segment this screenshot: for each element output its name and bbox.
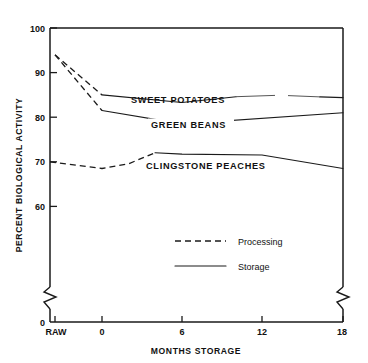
series-green-beans-processing: [55, 55, 102, 111]
line-chart-svg: 100 90 80 70 60 0 RAW 0 6 12 18 MONTHS S…: [0, 0, 368, 363]
series-annotation-clingstone-peaches: CLINGSTONE PEACHES: [143, 160, 274, 171]
series-label-clingstone-peaches: CLINGSTONE PEACHES: [146, 161, 266, 171]
chart-legend: Processing Storage: [175, 237, 283, 272]
x-tick-label: 12: [257, 327, 267, 337]
plot-frame: [50, 28, 343, 322]
x-tick-label: 0: [99, 327, 104, 337]
x-tick-label: 6: [179, 327, 184, 337]
series-sweet-potatoes-processing: [55, 55, 102, 95]
legend-label-storage: Storage: [238, 262, 270, 272]
legend-item-storage: Storage: [175, 262, 270, 272]
series-annotation-green-beans: GREEN BEANS: [148, 119, 234, 130]
series-label-sweet-potatoes: SWEET POTATOES: [131, 95, 225, 105]
x-tick-labels: RAW 0 6 12 18: [46, 327, 348, 337]
x-tick-label-raw: RAW: [46, 327, 68, 337]
y-axis-title: PERCENT BIOLOGICAL ACTIVITY: [14, 98, 24, 253]
y-tick-label: 80: [35, 113, 45, 123]
axis-break-left-icon: [44, 287, 56, 309]
series-label-green-beans: GREEN BEANS: [151, 120, 226, 130]
series-annotation-sweet-potatoes: SWEET POTATOES: [131, 95, 225, 105]
series-clingstone-peaches-processing: [50, 153, 155, 169]
legend-label-processing: Processing: [238, 237, 283, 247]
chart-figure: 100 90 80 70 60 0 RAW 0 6 12 18 MONTHS S…: [0, 0, 368, 363]
axis-break-right-icon: [337, 287, 349, 309]
y-tick-label: 60: [35, 202, 45, 212]
y-tick-label-zero: 0: [40, 318, 45, 328]
y-tick-labels: 100 90 80 70 60 0: [30, 24, 45, 328]
legend-item-processing: Processing: [175, 237, 283, 247]
y-tick-label: 70: [35, 157, 45, 167]
x-axis-ticks: [55, 316, 343, 322]
y-tick-label: 90: [35, 68, 45, 78]
y-tick-label: 100: [30, 24, 45, 34]
x-axis-title: MONTHS STORAGE: [151, 346, 241, 356]
x-tick-label: 18: [337, 327, 347, 337]
